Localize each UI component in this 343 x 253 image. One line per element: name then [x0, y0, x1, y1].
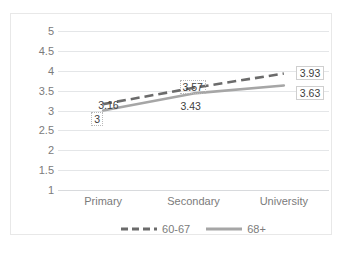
chart-container: 3.16 3 3.57 3.43 3.93 3.63 54.543.532.52…: [10, 13, 332, 235]
y-axis-tick-label: 2: [22, 145, 54, 156]
legend-entry[interactable]: 60-67: [121, 224, 190, 235]
x-axis: PrimarySecondaryUniversity: [58, 195, 329, 211]
data-label-60-67-secondary: 3.57: [180, 80, 206, 94]
x-axis-tick-label: Secondary: [149, 195, 239, 208]
y-axis-tick-label: 1: [22, 185, 54, 196]
y-axis-tick-label: 5: [22, 26, 54, 37]
data-label-68plus-university: 3.63: [296, 86, 324, 100]
y-axis-tick-label: 2.5: [22, 125, 54, 136]
y-axis-tick-label: 1.5: [22, 165, 54, 176]
data-label-68plus-primary: 3: [91, 112, 103, 126]
chart-legend: 60-6768+: [58, 220, 329, 238]
y-axis-tick-label: 4.5: [22, 46, 54, 57]
gridline: [58, 190, 329, 191]
x-axis-tick-label: University: [239, 195, 329, 208]
data-label-68plus-secondary: 3.43: [181, 100, 201, 112]
y-axis: 54.543.532.521.51: [20, 31, 54, 190]
plot-area: 3.16 3 3.57 3.43 3.93 3.63: [58, 31, 329, 190]
y-axis-tick-label: 4: [22, 66, 54, 77]
data-label-60-67-university: 3.93: [296, 66, 324, 80]
data-label-60-67-primary: 3.16: [98, 99, 118, 111]
legend-label: 68+: [247, 224, 266, 235]
y-axis-tick-label: 3.5: [22, 86, 54, 97]
x-axis-tick-label: Primary: [58, 195, 148, 208]
legend-solid-line-icon: [206, 224, 242, 234]
y-axis-tick-label: 3: [22, 106, 54, 117]
legend-label: 60-67: [162, 224, 190, 235]
legend-dashed-line-icon: [121, 224, 157, 234]
legend-entry[interactable]: 68+: [206, 224, 266, 235]
